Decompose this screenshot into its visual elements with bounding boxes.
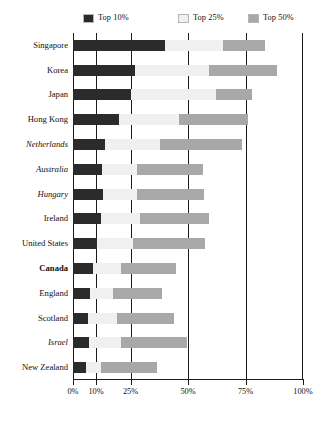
bar-segment-top10 <box>73 89 131 100</box>
bar-segment-top25 <box>89 337 121 348</box>
category-label: Hong Kong <box>0 114 68 124</box>
bar-segment-top10 <box>73 139 105 150</box>
tick-10pct <box>96 379 97 385</box>
chart-legend: Top 10% Top 25% Top 50% <box>73 13 303 29</box>
chart-row[interactable]: Hungary <box>73 182 303 206</box>
bar-segment-top25 <box>103 189 138 200</box>
chart-row[interactable]: England <box>73 281 303 305</box>
category-label: Canada <box>0 263 68 273</box>
legend-swatch-top50 <box>248 14 259 23</box>
bar-segment-top10 <box>73 238 97 249</box>
bar-segment-top50 <box>140 213 209 224</box>
category-label: Japan <box>0 89 68 99</box>
tick-50pct <box>188 379 189 385</box>
chart-row[interactable]: Singapore <box>73 33 303 57</box>
category-label: England <box>0 288 68 298</box>
chart-row[interactable]: Netherlands <box>73 132 303 156</box>
chart-row[interactable]: Korea <box>73 58 303 82</box>
chart-row[interactable]: Japan <box>73 83 303 107</box>
bar-segment-top25 <box>97 238 133 249</box>
bar-segment-top10 <box>73 164 102 175</box>
bar-segment-top50 <box>216 89 253 100</box>
legend-swatch-top10 <box>83 14 94 23</box>
bar-segment-top25 <box>90 288 113 299</box>
legend-item-top50[interactable]: Top 50% <box>248 13 294 23</box>
tick-100pct <box>303 379 304 385</box>
bar-segment-top10 <box>73 189 103 200</box>
bar-segment-top25 <box>102 164 138 175</box>
bar-segment-top50 <box>121 263 176 274</box>
category-label: Korea <box>0 65 68 75</box>
bar-segment-top10 <box>73 263 93 274</box>
plot-area: SingaporeKoreaJapanHong KongNetherlandsA… <box>73 33 303 380</box>
category-label: Scotland <box>0 313 68 323</box>
bar-segment-top25 <box>131 89 216 100</box>
bar-segment-top25 <box>165 40 223 51</box>
category-label: Hungary <box>0 189 68 199</box>
bar-segment-top50 <box>101 362 157 373</box>
category-label: Australia <box>0 164 68 174</box>
bar-segment-top25 <box>88 313 117 324</box>
bar-segment-top10 <box>73 288 90 299</box>
category-label: Israel <box>0 337 68 347</box>
legend-item-top10[interactable]: Top 10% <box>83 13 129 23</box>
tick-label: 100% <box>283 387 323 397</box>
category-label: Singapore <box>0 40 68 50</box>
chart-row[interactable]: Canada <box>73 256 303 280</box>
category-label: United States <box>0 238 68 248</box>
bar-segment-top10 <box>73 362 86 373</box>
tick-25pct <box>131 379 132 385</box>
legend-item-top25[interactable]: Top 25% <box>178 13 224 23</box>
bar-segment-top50 <box>117 313 175 324</box>
bar-segment-top25 <box>119 114 179 125</box>
chart-row[interactable]: United States <box>73 231 303 255</box>
chart-row[interactable]: New Zealand <box>73 355 303 379</box>
chart-row[interactable]: Israel <box>73 330 303 354</box>
bar-segment-top25 <box>86 362 101 373</box>
bar-segment-top10 <box>73 213 101 224</box>
bar-segment-top25 <box>101 213 140 224</box>
bar-segment-top10 <box>73 337 89 348</box>
chart-row[interactable]: Ireland <box>73 207 303 231</box>
chart-container: Top 10% Top 25% Top 50% SingaporeKoreaJa… <box>0 0 329 422</box>
bar-segment-top50 <box>137 164 203 175</box>
bar-segment-top25 <box>135 65 209 76</box>
category-label: Ireland <box>0 213 68 223</box>
tick-label: 50% <box>168 387 208 397</box>
chart-row[interactable]: Australia <box>73 157 303 181</box>
bar-segment-top10 <box>73 114 119 125</box>
bar-segment-top50 <box>113 288 161 299</box>
bar-segment-top50 <box>179 114 248 125</box>
chart-row[interactable]: Hong Kong <box>73 107 303 131</box>
tick-75pct <box>246 379 247 385</box>
category-label: Netherlands <box>0 139 68 149</box>
bar-segment-top50 <box>133 238 205 249</box>
legend-label-top50: Top 50% <box>263 13 294 23</box>
tick-0pct <box>73 379 74 385</box>
bar-segment-top50 <box>137 189 204 200</box>
bar-segment-top50 <box>160 139 242 150</box>
bar-segment-top10 <box>73 65 135 76</box>
category-label: New Zealand <box>0 362 68 372</box>
bar-segment-top10 <box>73 40 165 51</box>
bar-segment-top25 <box>105 139 160 150</box>
legend-label-top25: Top 25% <box>193 13 224 23</box>
bar-segment-top50 <box>121 337 187 348</box>
bar-segment-top50 <box>223 40 266 51</box>
legend-swatch-top25 <box>178 14 189 23</box>
bar-segment-top50 <box>209 65 277 76</box>
bar-segment-top10 <box>73 313 88 324</box>
tick-label: 25% <box>111 387 151 397</box>
legend-label-top10: Top 10% <box>98 13 129 23</box>
bar-segment-top25 <box>93 263 122 274</box>
tick-label: 75% <box>226 387 266 397</box>
chart-row[interactable]: Scotland <box>73 306 303 330</box>
